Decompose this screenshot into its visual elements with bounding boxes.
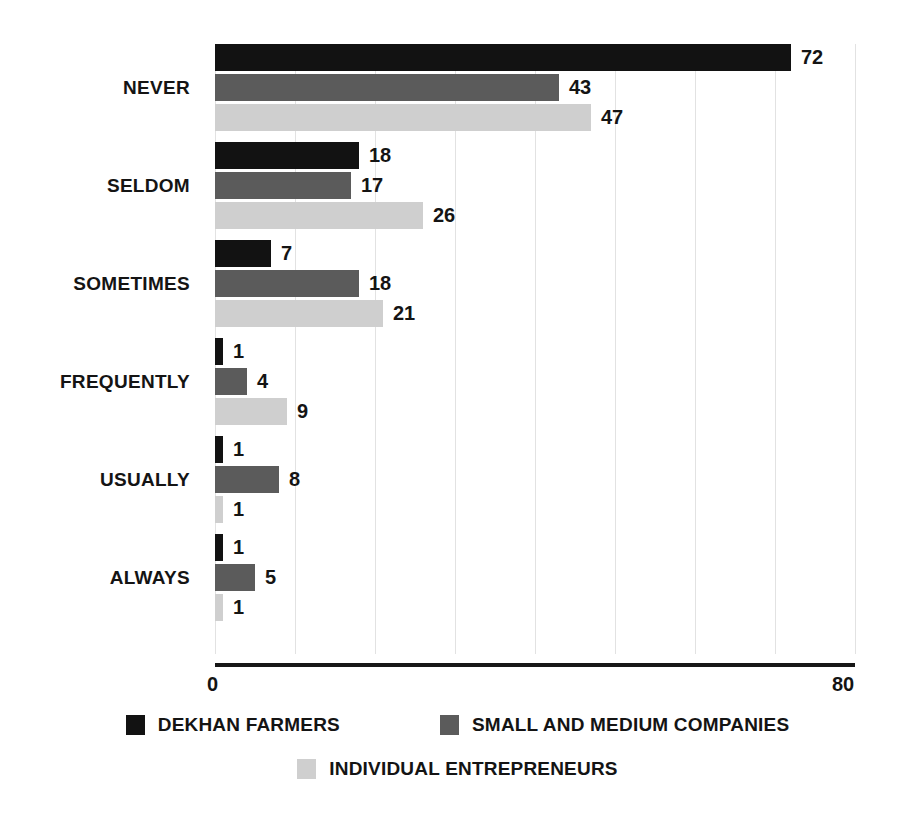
bar-chart: 72434718172671821149181151 NEVERSELDOMSO… (0, 0, 915, 830)
gridline (695, 44, 696, 654)
bar-value-label: 1 (233, 436, 244, 463)
bar-usually-series-2[interactable] (215, 466, 279, 493)
bar-value-label: 47 (601, 104, 623, 131)
bar-value-label: 9 (297, 398, 308, 425)
bar-seldom-series-1[interactable] (215, 142, 359, 169)
category-label-sometimes: SOMETIMES (0, 274, 190, 293)
gridline (455, 44, 456, 654)
bar-frequently-series-3[interactable] (215, 398, 287, 425)
bar-always-series-1[interactable] (215, 534, 223, 561)
bar-seldom-series-2[interactable] (215, 172, 351, 199)
legend-item-label: DEKHAN FARMERS (158, 714, 340, 736)
bar-usually-series-1[interactable] (215, 436, 223, 463)
gridline (295, 44, 296, 654)
bar-value-label: 1 (233, 594, 244, 621)
legend-swatch-icon (126, 715, 145, 735)
x-axis-min-label: 0 (207, 672, 218, 696)
bar-value-label: 1 (233, 496, 244, 523)
bar-sometimes-series-2[interactable] (215, 270, 359, 297)
bar-frequently-series-2[interactable] (215, 368, 247, 395)
x-axis-max-label: 80 (832, 672, 854, 696)
legend-row-top: DEKHAN FARMERS SMALL AND MEDIUM COMPANIE… (0, 714, 915, 736)
legend-item-label: SMALL AND MEDIUM COMPANIES (472, 714, 789, 736)
legend: DEKHAN FARMERS SMALL AND MEDIUM COMPANIE… (0, 714, 915, 780)
gridline (535, 44, 536, 654)
bar-value-label: 18 (369, 142, 391, 169)
category-axis-labels: NEVERSELDOMSOMETIMESFREQUENTLYUSUALLYALW… (0, 44, 190, 654)
plot-area: 72434718172671821149181151 (215, 44, 855, 654)
bar-value-label: 4 (257, 368, 268, 395)
bar-never-series-1[interactable] (215, 44, 791, 71)
bar-value-label: 43 (569, 74, 591, 101)
legend-row-bottom: INDIVIDUAL ENTREPRENEURS (0, 758, 915, 780)
bar-value-label: 1 (233, 338, 244, 365)
bar-sometimes-series-1[interactable] (215, 240, 271, 267)
category-label-always: ALWAYS (0, 568, 190, 587)
legend-swatch-icon (297, 759, 316, 779)
bar-never-series-3[interactable] (215, 104, 591, 131)
gridline (855, 44, 856, 654)
category-label-frequently: FREQUENTLY (0, 372, 190, 391)
legend-item-small-and-medium-companies[interactable]: SMALL AND MEDIUM COMPANIES (440, 714, 789, 736)
legend-swatch-icon (440, 715, 459, 735)
gridline (375, 44, 376, 654)
bar-seldom-series-3[interactable] (215, 202, 423, 229)
category-label-usually: USUALLY (0, 470, 190, 489)
x-axis-line (215, 663, 855, 667)
bar-usually-series-3[interactable] (215, 496, 223, 523)
bar-value-label: 72 (801, 44, 823, 71)
legend-item-dekhan-farmers[interactable]: DEKHAN FARMERS (126, 714, 340, 736)
bar-value-label: 7 (281, 240, 292, 267)
bar-value-label: 17 (361, 172, 383, 199)
bar-never-series-2[interactable] (215, 74, 559, 101)
legend-item-individual-entrepreneurs[interactable]: INDIVIDUAL ENTREPRENEURS (297, 758, 617, 780)
bar-value-label: 26 (433, 202, 455, 229)
category-label-never: NEVER (0, 78, 190, 97)
category-label-seldom: SELDOM (0, 176, 190, 195)
bar-always-series-3[interactable] (215, 594, 223, 621)
bar-always-series-2[interactable] (215, 564, 255, 591)
legend-item-label: INDIVIDUAL ENTREPRENEURS (329, 758, 617, 780)
bar-value-label: 18 (369, 270, 391, 297)
bar-sometimes-series-3[interactable] (215, 300, 383, 327)
bar-frequently-series-1[interactable] (215, 338, 223, 365)
bar-value-label: 1 (233, 534, 244, 561)
bar-value-label: 8 (289, 466, 300, 493)
gridline (775, 44, 776, 654)
bar-value-label: 21 (393, 300, 415, 327)
gridline (615, 44, 616, 654)
bar-value-label: 5 (265, 564, 276, 591)
